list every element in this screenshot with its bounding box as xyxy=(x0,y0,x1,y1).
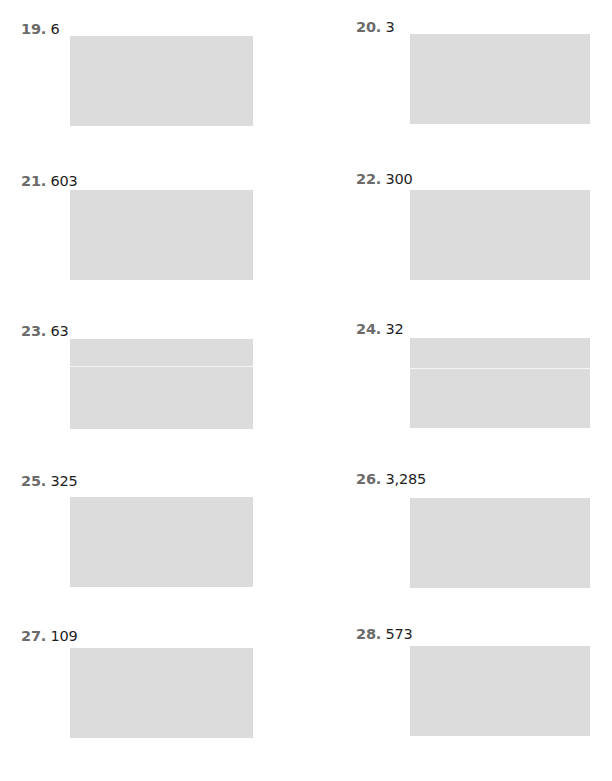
problem-label: 28. 573 xyxy=(356,625,413,643)
problem-number: 20. xyxy=(356,19,381,35)
problem-number: 26. xyxy=(356,471,381,487)
problem-28: 28. 573 xyxy=(356,625,612,755)
problem-21: 21. 603 xyxy=(21,172,281,302)
problem-value: 3 xyxy=(386,19,395,35)
problem-value: 63 xyxy=(51,323,69,339)
problem-number: 28. xyxy=(356,626,381,642)
problem-number: 19. xyxy=(21,21,46,37)
problem-number: 27. xyxy=(21,628,46,644)
answer-box[interactable] xyxy=(70,190,253,280)
answer-box-divided[interactable] xyxy=(410,338,590,428)
problem-label: 19. 6 xyxy=(21,20,60,38)
problem-19: 19. 6 xyxy=(21,20,281,150)
problem-label: 22. 300 xyxy=(356,170,413,188)
problem-25: 25. 325 xyxy=(21,472,281,602)
problem-20: 20. 3 xyxy=(356,18,612,148)
problem-number: 24. xyxy=(356,321,381,337)
problem-label: 25. 325 xyxy=(21,472,78,490)
problem-value: 300 xyxy=(386,171,413,187)
answer-box[interactable] xyxy=(410,646,590,736)
problem-23: 23. 63 xyxy=(21,322,281,452)
problem-label: 26. 3,285 xyxy=(356,470,426,488)
answer-box[interactable] xyxy=(410,190,590,280)
problem-number: 23. xyxy=(21,323,46,339)
problem-label: 20. 3 xyxy=(356,18,395,36)
problem-value: 3,285 xyxy=(386,471,427,487)
problem-label: 23. 63 xyxy=(21,322,69,340)
answer-box-divided[interactable] xyxy=(70,339,253,429)
problem-22: 22. 300 xyxy=(356,170,612,300)
problem-value: 573 xyxy=(386,626,413,642)
answer-box[interactable] xyxy=(410,498,590,588)
problem-27: 27. 109 xyxy=(21,627,281,757)
problem-number: 22. xyxy=(356,171,381,187)
problem-value: 32 xyxy=(386,321,404,337)
problem-value: 325 xyxy=(51,473,78,489)
answer-box[interactable] xyxy=(70,497,253,587)
answer-box[interactable] xyxy=(70,648,253,738)
problem-label: 27. 109 xyxy=(21,627,78,645)
answer-box[interactable] xyxy=(70,36,253,126)
problem-value: 109 xyxy=(51,628,78,644)
problem-value: 603 xyxy=(51,173,78,189)
answer-box[interactable] xyxy=(410,34,590,124)
problem-label: 21. 603 xyxy=(21,172,78,190)
problem-label: 24. 32 xyxy=(356,320,404,338)
problem-24: 24. 32 xyxy=(356,320,612,450)
problem-value: 6 xyxy=(51,21,60,37)
problem-number: 21. xyxy=(21,173,46,189)
problem-number: 25. xyxy=(21,473,46,489)
problem-26: 26. 3,285 xyxy=(356,470,612,600)
